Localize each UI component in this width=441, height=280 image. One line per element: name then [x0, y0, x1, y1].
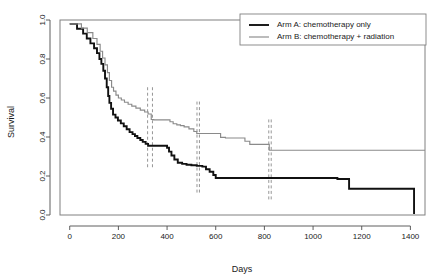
y-tick-label: 0.2: [38, 170, 47, 182]
legend: Arm A: chemotherapy onlyArm B: chemother…: [240, 14, 426, 45]
legend-label: Arm B: chemotherapy + radiation: [277, 32, 394, 41]
x-axis-title: Days: [232, 264, 253, 274]
y-tick-label: 1.0: [38, 14, 47, 26]
y-axis-title: Survival: [6, 106, 16, 138]
x-tick-label: 600: [209, 232, 223, 241]
x-tick-label: 800: [258, 232, 272, 241]
y-tick-label: 0.4: [38, 131, 47, 143]
x-tick-label: 1400: [402, 232, 420, 241]
x-tick-label: 200: [112, 232, 126, 241]
legend-label: Arm A: chemotherapy only: [277, 20, 371, 29]
y-tick-label: 0.6: [38, 92, 47, 104]
x-tick-label: 1200: [353, 232, 371, 241]
x-tick-label: 0: [68, 232, 73, 241]
y-tick-label: 0.0: [38, 209, 47, 221]
x-tick-label: 400: [160, 232, 174, 241]
x-tick-label: 1000: [304, 232, 322, 241]
y-tick-label: 0.8: [38, 53, 47, 65]
survival-plot-figure: 0.00.20.40.60.81.0 020040060080010001200…: [0, 0, 441, 280]
